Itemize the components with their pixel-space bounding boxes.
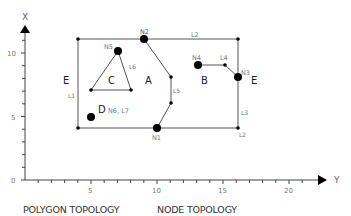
caption-polygon-topology: POLYGON TOPOLOGY bbox=[23, 204, 119, 215]
line-l2-label-top: L2 bbox=[191, 31, 199, 39]
vertices bbox=[76, 37, 240, 130]
y-tick-10: 10 bbox=[7, 50, 16, 58]
x-tick-20: 20 bbox=[284, 187, 293, 195]
node-n1 bbox=[153, 124, 161, 132]
line-l5-label: L5 bbox=[173, 87, 180, 94]
y-axis-arrow-icon bbox=[20, 25, 30, 33]
x-axis-label: Y bbox=[333, 175, 340, 185]
polygon-b-label: B bbox=[201, 75, 208, 86]
y-axis-label: X bbox=[22, 12, 28, 22]
polygon-d-label: D bbox=[98, 104, 106, 115]
x-axis-arrow-icon bbox=[318, 175, 327, 185]
node-n5-label: N5 bbox=[104, 43, 113, 51]
line-l6-label: L6 bbox=[129, 63, 136, 70]
y-tick-5: 5 bbox=[11, 114, 15, 122]
x-tick-10: 10 bbox=[152, 187, 161, 195]
line-l2-label-bottom: L2 bbox=[239, 131, 246, 138]
x-tick-15: 15 bbox=[218, 187, 227, 195]
y-axis bbox=[21, 32, 25, 180]
node-n2 bbox=[140, 35, 148, 43]
line-l1-label: L1 bbox=[68, 92, 75, 99]
y-tick-0: 0 bbox=[11, 177, 15, 185]
line-l3-label: L3 bbox=[241, 109, 248, 116]
polygon-e-label-right: E bbox=[251, 75, 257, 86]
caption-node-topology: NODE TOPOLOGY bbox=[157, 204, 237, 215]
topology-diagram: X 0 5 10 Y 5 10 15 20 bbox=[0, 0, 351, 216]
polygon-a-label: A bbox=[145, 75, 152, 86]
polygon-c-label: C bbox=[108, 75, 115, 86]
node-n2-label: N2 bbox=[140, 28, 149, 36]
node-n4 bbox=[194, 61, 202, 69]
node-n4-label: N4 bbox=[192, 54, 201, 62]
node-n3-label: N3 bbox=[241, 69, 250, 77]
polygon-d-note: N6, L7 bbox=[108, 107, 129, 115]
line-l4-label: L4 bbox=[220, 54, 228, 62]
polygon-e-label-left: E bbox=[63, 75, 69, 86]
node-n1-label: N1 bbox=[152, 134, 161, 142]
x-tick-5: 5 bbox=[88, 187, 92, 195]
node-n5 bbox=[114, 47, 122, 55]
node-n6 bbox=[87, 113, 95, 121]
x-axis bbox=[25, 180, 318, 184]
